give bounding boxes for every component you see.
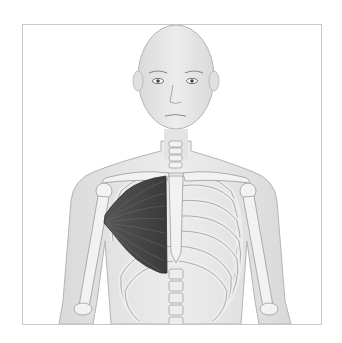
sternum <box>169 176 183 263</box>
illustration-frame <box>22 24 322 325</box>
head <box>133 25 219 129</box>
anatomy-illustration <box>23 25 321 324</box>
